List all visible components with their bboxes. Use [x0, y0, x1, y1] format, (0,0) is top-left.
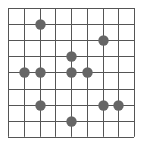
point-grid-diagram — [0, 0, 141, 143]
grid-point — [113, 100, 123, 110]
grid-point — [19, 67, 29, 77]
grid-point — [66, 116, 76, 126]
grid-point — [98, 100, 108, 110]
grid-point — [35, 19, 45, 29]
grid-point — [35, 100, 45, 110]
grid-point — [66, 67, 76, 77]
grid-point — [98, 35, 108, 45]
grid-point — [82, 67, 92, 77]
grid-point — [66, 51, 76, 61]
grid-point — [35, 67, 45, 77]
